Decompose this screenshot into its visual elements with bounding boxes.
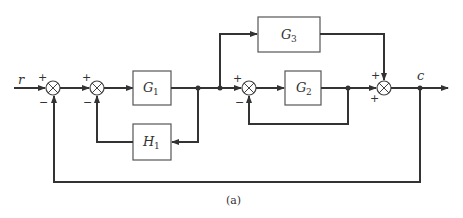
svg-text:+: + xyxy=(371,69,380,82)
svg-text:+: + xyxy=(38,71,47,84)
summing-junction-3: + − xyxy=(233,72,256,109)
svg-text:2: 2 xyxy=(306,87,312,97)
svg-text:−: − xyxy=(235,96,244,109)
svg-text:−: − xyxy=(39,96,48,109)
output-signal-c: c xyxy=(391,68,448,91)
summing-junction-1: + − xyxy=(38,71,60,109)
svg-text:+: + xyxy=(370,92,379,105)
svg-text:G: G xyxy=(143,80,153,95)
svg-text:r: r xyxy=(18,72,25,87)
svg-text:1: 1 xyxy=(154,141,160,151)
svg-text:c: c xyxy=(417,68,425,83)
figure-caption: (a) xyxy=(226,194,241,207)
svg-text:G: G xyxy=(296,80,306,95)
svg-text:3: 3 xyxy=(291,34,297,44)
block-h1: H 1 xyxy=(133,124,171,160)
block-diagram: r + − + − G 1 H 1 G 3 xyxy=(0,0,463,218)
svg-text:−: − xyxy=(83,96,92,109)
svg-text:+: + xyxy=(82,71,91,84)
svg-text:1: 1 xyxy=(153,87,159,97)
block-g3: G 3 xyxy=(258,17,320,52)
summing-junction-2: + − xyxy=(82,71,104,109)
svg-text:G: G xyxy=(281,27,291,42)
block-g1: G 1 xyxy=(133,71,171,105)
block-g2: G 2 xyxy=(285,71,321,105)
svg-text:+: + xyxy=(233,72,242,85)
